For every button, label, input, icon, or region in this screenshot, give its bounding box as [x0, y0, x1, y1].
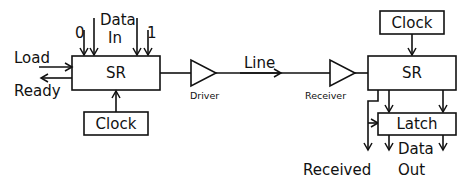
latch-label: Latch — [396, 115, 437, 133]
zero-label: 0 — [75, 24, 85, 42]
data-in-label-2: In — [108, 29, 122, 47]
driver-label: Driver — [190, 90, 219, 101]
ready-label: Ready — [14, 82, 61, 100]
data-out-label-2: Out — [398, 161, 425, 179]
transmit-sr-label: SR — [106, 64, 126, 82]
line-label: Line — [244, 54, 275, 72]
receiver-triangle — [330, 60, 355, 86]
data-in-label-1: Data — [100, 11, 136, 29]
receive-sr-label: SR — [402, 64, 422, 82]
data-out-label-1: Data — [398, 140, 434, 158]
driver-triangle — [191, 60, 216, 86]
transmit-clock-label: Clock — [96, 115, 137, 133]
one-label: 1 — [147, 24, 157, 42]
receiver-label: Receiver — [305, 90, 346, 101]
serial-link-diagram: 0 Data In 1 SR Load Ready Clock Driver L… — [0, 0, 468, 184]
received-label: Received — [303, 161, 371, 179]
load-label: Load — [14, 49, 50, 67]
received-signal-path — [368, 90, 378, 150]
receive-clock-label: Clock — [392, 14, 433, 32]
